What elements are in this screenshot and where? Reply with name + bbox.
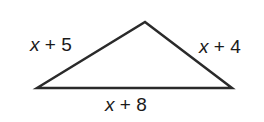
base-variable: x: [105, 94, 115, 115]
left-side-label: x + 5: [30, 34, 72, 56]
left-side-constant: + 5: [40, 34, 72, 55]
right-side-label: x + 4: [199, 36, 241, 58]
left-side-variable: x: [30, 34, 40, 55]
right-side-variable: x: [199, 36, 209, 57]
base-constant: + 8: [115, 94, 147, 115]
base-label: x + 8: [105, 94, 147, 116]
right-side-constant: + 4: [209, 36, 241, 57]
